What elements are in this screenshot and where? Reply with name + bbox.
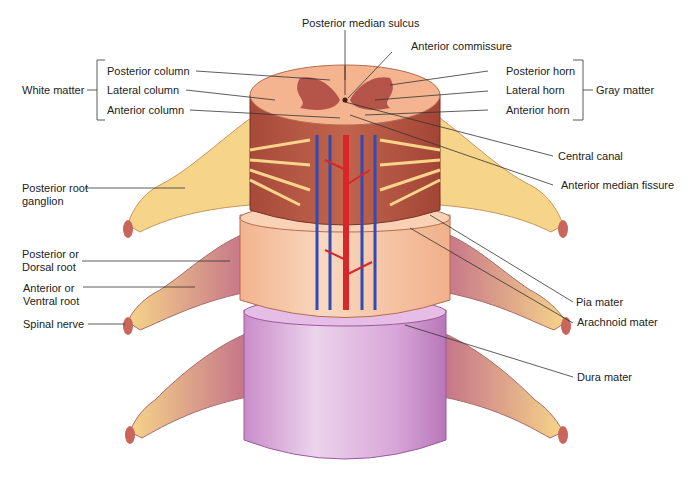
spinal-nerves-left [123,115,258,444]
label-white-matter: White matter [22,84,84,97]
spinal-cord-diagram [0,0,691,478]
label-central-canal: Central canal [558,150,623,163]
label-lateral-horn: Lateral horn [506,84,565,97]
spinal-nerves-right [432,115,571,444]
label-pia-mater: Pia mater [576,296,623,309]
label-gray-matter: Gray matter [596,84,654,97]
dura-mater-layer [244,298,446,459]
label-anterior-horn: Anterior horn [506,104,570,117]
label-lateral-column: Lateral column [107,84,179,97]
label-dura-mater: Dura mater [577,371,632,384]
label-anterior-column: Anterior column [107,104,184,117]
central-canal [343,98,348,103]
label-spinal-nerve: Spinal nerve [23,318,84,331]
label-posterior-horn: Posterior horn [506,65,575,78]
label-posterior-median-sulcus: Posterior median sulcus [302,17,419,30]
label-anterior-median-fissure: Anterior median fissure [561,179,674,192]
label-posterior-column: Posterior column [107,65,190,78]
label-anterior-ventral-root: Anterior or Ventral root [23,282,79,308]
label-arachnoid-mater: Arachnoid mater [577,316,658,329]
label-posterior-root-ganglion: Posterior root ganglion [22,182,88,208]
label-posterior-dorsal-root: Posterior or Dorsal root [22,248,79,274]
label-anterior-commissure: Anterior commissure [411,40,512,53]
